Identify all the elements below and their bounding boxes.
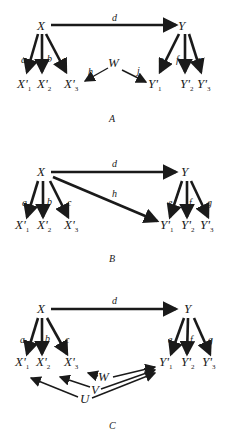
edge-label-h: h — [88, 66, 93, 77]
node-y3: Υ'3 — [202, 354, 216, 371]
arrow-a — [27, 181, 38, 217]
path-diagram-figure: X Υ W X'1 X'2 X'3 Υ'1 Υ'2 Υ'3 d a b c e … — [0, 0, 233, 432]
edge-label-d: d — [112, 295, 118, 306]
caption-a: A — [108, 113, 116, 124]
edge-label-g: g — [196, 54, 201, 65]
node-x2: X'2 — [35, 354, 51, 371]
arrow-g — [189, 34, 201, 72]
node-u: U — [80, 391, 91, 406]
arrow-a — [27, 34, 38, 72]
node-x: X — [36, 301, 46, 316]
arrow-c — [50, 181, 68, 217]
node-y1: Υ'1 — [148, 76, 162, 93]
node-y2: Υ'2 — [181, 354, 195, 371]
panel-c: X Υ W V U X'1 X'2 X'3 Υ'1 Υ'2 Υ'3 d a b … — [14, 295, 216, 431]
node-x: X — [36, 164, 46, 179]
edge-label-c: c — [67, 197, 72, 208]
edge-label-f: f — [190, 334, 194, 345]
edge-label-j: j — [135, 65, 140, 76]
node-y2: Υ'2 — [180, 76, 194, 93]
edge-label-g: g — [207, 197, 212, 208]
node-x: X — [36, 18, 46, 33]
node-x1: X'1 — [16, 76, 32, 93]
node-w: W — [108, 55, 120, 70]
node-y: Υ — [184, 301, 193, 316]
edge-label-f: f — [176, 54, 180, 65]
node-y: Υ — [181, 164, 190, 179]
edge-label-e: e — [159, 54, 164, 65]
edge-label-f: f — [189, 197, 193, 208]
edge-label-a: a — [20, 334, 25, 345]
caption-c: C — [109, 420, 116, 431]
edge-label-b: b — [47, 53, 52, 64]
node-y3: Υ'3 — [197, 76, 211, 93]
node-y1: Υ'1 — [160, 217, 174, 234]
edge-label-c: c — [62, 54, 67, 65]
arrow-a — [27, 318, 38, 354]
node-y1: Υ'1 — [159, 354, 173, 371]
edge-label-d: d — [112, 12, 118, 23]
panel-a: X Υ W X'1 X'2 X'3 Υ'1 Υ'2 Υ'3 d a b c e … — [16, 12, 211, 124]
arrow-e — [171, 318, 184, 354]
arrow-j — [122, 70, 146, 82]
node-x2: X'2 — [36, 76, 52, 93]
edge-label-e: e — [168, 334, 173, 345]
edge-label-d: d — [112, 158, 118, 169]
edge-label-g: g — [208, 334, 213, 345]
caption-b: B — [109, 253, 115, 264]
node-w: W — [98, 369, 110, 384]
edge-label-e: e — [168, 197, 173, 208]
node-x3: X'3 — [63, 354, 79, 371]
edge-label-h: h — [112, 188, 117, 199]
arrow-e — [160, 34, 179, 72]
edge-label-b: b — [45, 333, 50, 344]
edge-label-a: a — [21, 54, 26, 65]
node-y: Υ — [178, 18, 187, 33]
arrow-g — [191, 181, 208, 217]
arrow-f — [187, 318, 188, 354]
arrow-w-to-x3 — [88, 373, 98, 376]
edge-label-c: c — [65, 334, 70, 345]
edge-label-b: b — [47, 196, 52, 207]
node-x3: X'3 — [63, 217, 79, 234]
node-x2: X'2 — [36, 217, 52, 234]
node-x3: X'3 — [63, 76, 79, 93]
arrow-c — [47, 318, 67, 354]
arrow-v-to-x2 — [60, 377, 90, 387]
edge-label-a: a — [22, 197, 27, 208]
node-y3: Υ'3 — [200, 217, 214, 234]
node-y2: Υ'2 — [181, 217, 195, 234]
node-x1: X'1 — [14, 217, 30, 234]
panel-b: X Υ X'1 X'2 X'3 Υ'1 Υ'2 Υ'3 d a b c h e … — [14, 158, 214, 264]
node-x1: X'1 — [14, 354, 30, 371]
